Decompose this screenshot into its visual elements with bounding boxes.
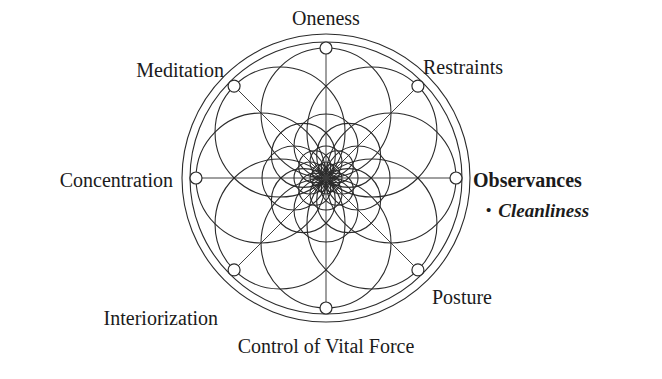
node-marker-oneness[interactable] bbox=[190, 172, 202, 184]
spoke-line-restraints bbox=[234, 86, 326, 178]
center-knot bbox=[323, 175, 330, 182]
node-label-observances[interactable]: Observances bbox=[473, 169, 582, 191]
spoke-line-posture bbox=[326, 86, 418, 178]
spoke-line-interiorization bbox=[326, 178, 418, 270]
node-label-posture[interactable]: Posture bbox=[432, 286, 492, 308]
node-marker-meditation[interactable] bbox=[228, 264, 240, 276]
sub-item-observances-0[interactable]: •Cleanliness bbox=[486, 200, 589, 222]
node-marker-control-vital-force[interactable] bbox=[450, 172, 462, 184]
bullet-icon: • bbox=[486, 202, 491, 219]
node-marker-posture[interactable] bbox=[412, 80, 424, 92]
node-marker-concentration[interactable] bbox=[320, 302, 332, 314]
node-marker-interiorization[interactable] bbox=[412, 264, 424, 276]
node-label-control-vital-force[interactable]: Control of Vital Force bbox=[238, 335, 415, 357]
spoke-line-meditation bbox=[234, 178, 326, 270]
node-marker-restraints[interactable] bbox=[228, 80, 240, 92]
node-label-meditation[interactable]: Meditation bbox=[136, 59, 224, 81]
sub-item-label: Cleanliness bbox=[498, 200, 589, 221]
node-label-concentration[interactable]: Concentration bbox=[60, 169, 173, 191]
node-marker-observances[interactable] bbox=[320, 42, 332, 54]
node-label-oneness[interactable]: Oneness bbox=[292, 7, 360, 29]
diagram-canvas: OnenessRestraintsObservancesPostureContr… bbox=[0, 0, 662, 379]
node-label-interiorization[interactable]: Interiorization bbox=[104, 307, 218, 329]
node-label-restraints[interactable]: Restraints bbox=[423, 56, 503, 78]
